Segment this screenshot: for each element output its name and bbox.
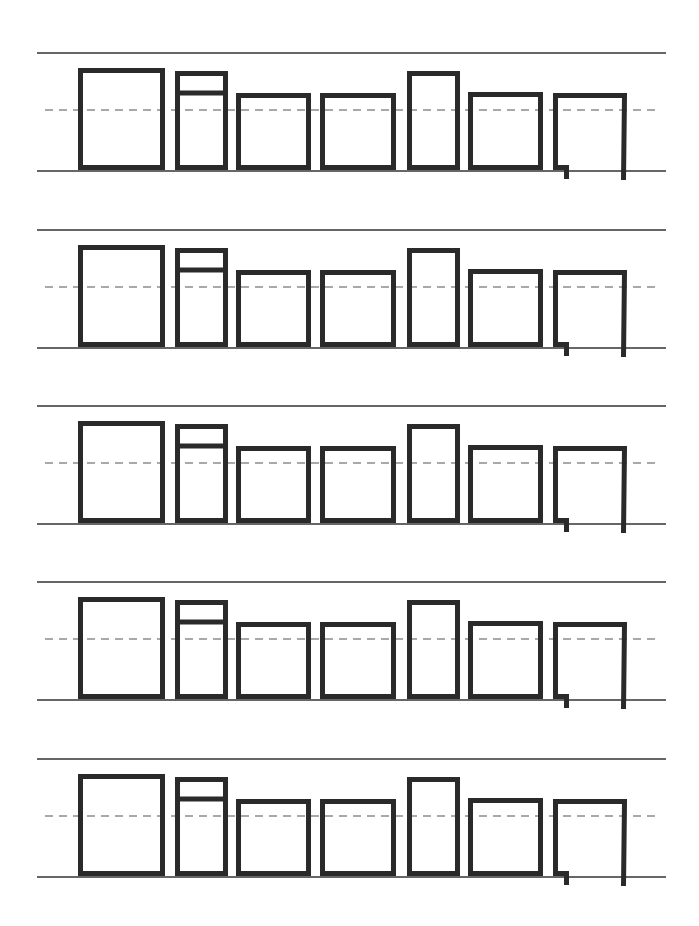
practice-row-2: [37, 230, 666, 357]
box-3-short-wide: [239, 273, 309, 345]
box-3-short-wide: [239, 449, 309, 521]
box-6-short-wide: [471, 272, 541, 345]
box-4-short-wide: [323, 449, 394, 521]
box-4-short-wide: [323, 273, 394, 345]
box-7-descender: [553, 802, 625, 887]
practice-row-5: [37, 759, 666, 886]
box-6-short-wide: [471, 801, 541, 874]
box-1-tall-wide: [81, 248, 163, 345]
box-1-tall-wide: [81, 424, 163, 521]
box-2-split: [175, 74, 228, 168]
box-4-short-wide: [323, 96, 394, 168]
box-1-tall-wide: [81, 600, 163, 697]
box-1-tall-wide: [81, 71, 163, 168]
box-2-split: [175, 251, 228, 345]
practice-row-3: [37, 406, 666, 533]
box-7-descender: [553, 625, 625, 710]
box-6-short-wide: [471, 95, 541, 168]
practice-row-1: [37, 53, 666, 180]
word-shape-worksheet: [0, 0, 699, 926]
box-3-short-wide: [239, 625, 309, 697]
box-4-short-wide: [323, 802, 394, 874]
practice-row-4: [37, 582, 666, 709]
box-7-descender: [553, 449, 625, 534]
box-7-descender: [553, 273, 625, 358]
box-3-short-wide: [239, 802, 309, 874]
box-5-tall-narrow: [410, 603, 458, 697]
box-2-split: [175, 427, 228, 521]
box-5-tall-narrow: [410, 74, 458, 168]
box-5-tall-narrow: [410, 427, 458, 521]
box-6-short-wide: [471, 448, 541, 521]
box-3-short-wide: [239, 96, 309, 168]
box-2-split: [175, 780, 228, 874]
box-5-tall-narrow: [410, 251, 458, 345]
box-2-split: [175, 603, 228, 697]
box-6-short-wide: [471, 624, 541, 697]
box-4-short-wide: [323, 625, 394, 697]
box-7-descender: [553, 96, 625, 181]
box-5-tall-narrow: [410, 780, 458, 874]
box-1-tall-wide: [81, 777, 163, 874]
